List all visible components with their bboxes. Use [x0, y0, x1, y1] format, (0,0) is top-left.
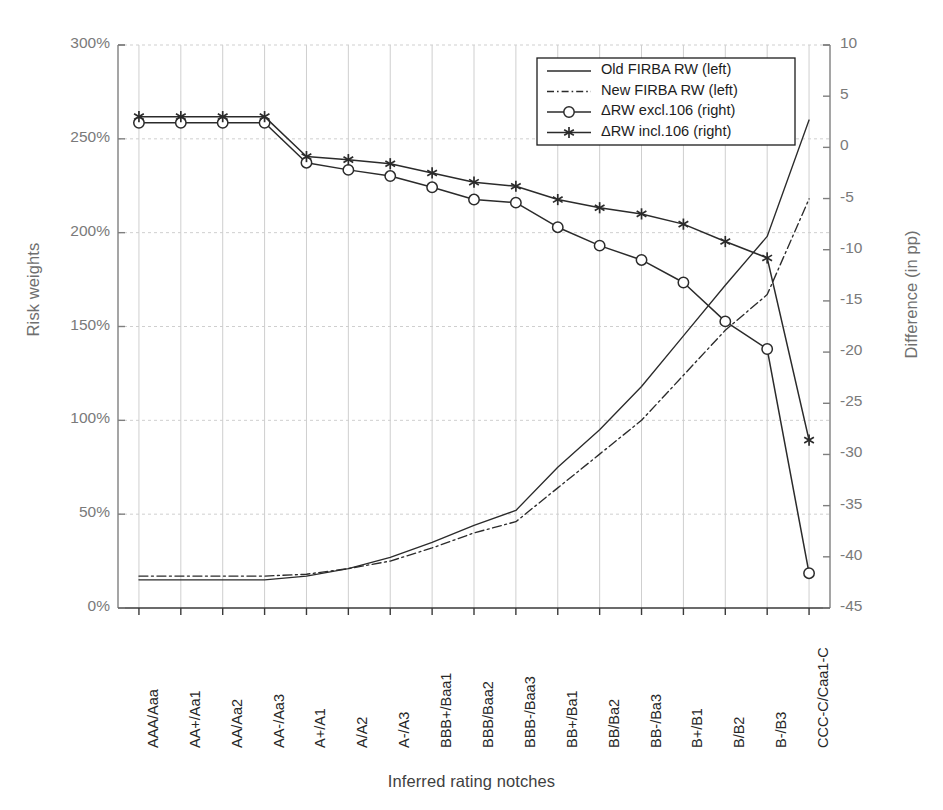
- x-axis-tick-9: BBB-/Baa3: [522, 676, 538, 748]
- x-axis-tick-13: B+/B1: [689, 708, 705, 748]
- x-axis-tick-8: BBB/Baa2: [480, 681, 496, 748]
- y-axis-right-tick-10: 5: [840, 85, 900, 103]
- y-axis-right-tick-0: -45: [840, 597, 900, 615]
- y-axis-left-tick-4: 200%: [50, 222, 110, 240]
- legend-item-1: New FIRBA RW (left): [601, 82, 738, 98]
- y-axis-left-tick-1: 50%: [50, 503, 110, 521]
- x-axis-tick-12: BB-/Ba3: [648, 694, 664, 748]
- x-axis-tick-4: A+/A1: [312, 708, 328, 748]
- legend-item-3: ΔRW incl.106 (right): [601, 123, 731, 139]
- y-axis-left-title: Risk weights: [24, 205, 43, 375]
- y-axis-left-tick-3: 150%: [50, 316, 110, 334]
- y-axis-right-tick-11: 10: [840, 34, 900, 52]
- chart-canvas: [0, 0, 943, 810]
- x-axis-tick-11: BB/Ba2: [606, 699, 622, 748]
- x-axis-tick-16: CCC-C/Caa1-C: [815, 647, 831, 748]
- x-axis-tick-5: A/A2: [354, 717, 370, 748]
- y-axis-right-title: Difference (in pp): [902, 200, 921, 390]
- y-axis-right-tick-2: -35: [840, 495, 900, 513]
- x-axis-tick-2: AA/Aa2: [229, 699, 245, 748]
- legend-item-0: Old FIRBA RW (left): [601, 61, 731, 77]
- y-axis-left-tick-6: 300%: [50, 34, 110, 52]
- x-axis-tick-7: BBB+/Baa1: [438, 673, 454, 748]
- y-axis-right-tick-6: -15: [840, 290, 900, 308]
- y-axis-left-tick-0: 0%: [50, 597, 110, 615]
- y-axis-right-tick-8: -5: [840, 188, 900, 206]
- y-axis-right-tick-9: 0: [840, 136, 900, 154]
- x-axis-tick-10: BB+/Ba1: [564, 690, 580, 748]
- y-axis-left-tick-2: 100%: [50, 409, 110, 427]
- x-axis-tick-3: AA-/Aa3: [271, 694, 287, 748]
- x-axis-tick-14: B/B2: [731, 717, 747, 748]
- x-axis-tick-0: AAA/Aaa: [145, 689, 161, 748]
- chart-figure: Risk weights Difference (in pp) Inferred…: [0, 0, 943, 810]
- y-axis-right-tick-7: -10: [840, 239, 900, 257]
- x-axis-tick-15: B-/B3: [773, 712, 789, 748]
- y-axis-left-tick-5: 250%: [50, 128, 110, 146]
- y-axis-right-tick-4: -25: [840, 392, 900, 410]
- y-axis-right-tick-3: -30: [840, 443, 900, 461]
- legend-item-2: ΔRW excl.106 (right): [601, 102, 735, 118]
- x-axis-tick-6: A-/A3: [396, 712, 412, 748]
- x-axis-title: Inferred rating notches: [0, 772, 943, 791]
- x-axis-tick-1: AA+/Aa1: [187, 690, 203, 748]
- y-axis-right-tick-1: -40: [840, 546, 900, 564]
- y-axis-right-tick-5: -20: [840, 341, 900, 359]
